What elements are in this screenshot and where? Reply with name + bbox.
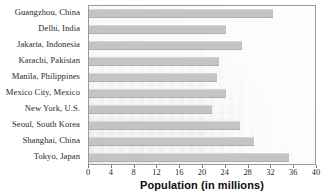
tick-label: 32: [266, 168, 274, 178]
category-label: Karachi, Pakistan: [0, 56, 80, 65]
category-label: New York, U.S.: [0, 104, 80, 113]
tick-label: 36: [289, 168, 297, 178]
category-label: Guangzhou, China: [0, 8, 80, 17]
category-axis: Guangzhou, China Delhi, India Jakarta, I…: [0, 5, 84, 165]
category-label: Shanghai, China: [0, 136, 80, 145]
category-label: Manila, Philippines: [0, 72, 80, 81]
tick-label: 0: [86, 168, 90, 178]
tick-label: 16: [175, 168, 183, 178]
bar-new-york-u-s: [89, 105, 212, 114]
tick-label: 12: [152, 168, 160, 178]
category-label: Delhi, India: [0, 24, 80, 33]
population-bar-chart: Guangzhou, China Delhi, India Jakarta, I…: [0, 0, 322, 195]
bars-layer: [89, 6, 315, 164]
bar-delhi-india: [89, 25, 226, 34]
tick-label: 40: [312, 168, 320, 178]
bar-jakarta-indonesia: [89, 41, 242, 50]
bar-seoul-south-korea: [89, 121, 240, 130]
category-label: Seoul, South Korea: [0, 120, 80, 129]
category-label: Tokyo, Japan: [0, 152, 80, 161]
plot-area: [88, 5, 316, 165]
tick-label: 8: [132, 168, 136, 178]
bar-tokyo-japan: [89, 153, 289, 162]
category-label: Jakarta, Indonesia: [0, 40, 80, 49]
tick-label: 20: [198, 168, 206, 178]
bar-mexico-city-mexico: [89, 89, 226, 98]
axis-title: Population (in millions): [88, 179, 316, 192]
bar-karachi-pakistan: [89, 57, 219, 66]
tick-label: 4: [109, 168, 113, 178]
tick-label: 24: [221, 168, 229, 178]
bar-guangzhou-china: [89, 9, 273, 18]
tick-label: 28: [243, 168, 251, 178]
value-axis: 0481216202428323640: [88, 165, 316, 179]
category-label: Mexico City, Mexico: [0, 88, 80, 97]
bar-manila-philippines: [89, 73, 217, 82]
bar-shanghai-china: [89, 137, 254, 146]
